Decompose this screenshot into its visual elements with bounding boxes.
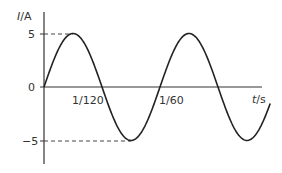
y-axis-label: I/A xyxy=(17,10,32,23)
sine-current-chart: I/A 5 0 −5 1/120 1/60 t/s xyxy=(0,0,282,173)
y-tick-5: 5 xyxy=(28,28,35,41)
x-tick-1-120: 1/120 xyxy=(72,94,104,107)
y-tick-0: 0 xyxy=(28,81,35,94)
x-tick-1-60: 1/60 xyxy=(159,94,184,107)
y-tick-neg5: −5 xyxy=(22,135,38,148)
x-axis-label: t/s xyxy=(252,93,266,106)
